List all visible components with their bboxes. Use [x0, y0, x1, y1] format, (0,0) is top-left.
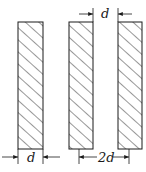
slab-width-label: d	[27, 150, 35, 165]
slab-width-dimension: d	[2, 149, 60, 165]
slab-3	[118, 22, 142, 149]
gap-dimension: d	[79, 6, 132, 22]
gap-label: d	[101, 6, 109, 21]
slab-2	[69, 22, 93, 149]
pitch-label: 2d	[97, 150, 115, 165]
pitch-dimension: 2d	[79, 149, 129, 165]
slab-1	[18, 22, 43, 149]
slabs-diagram: d 2d d	[0, 0, 146, 172]
